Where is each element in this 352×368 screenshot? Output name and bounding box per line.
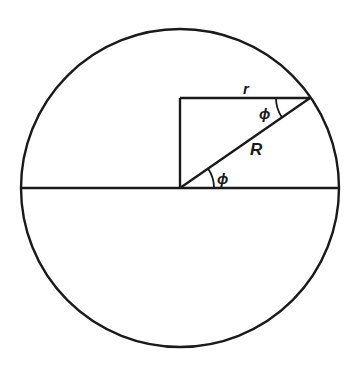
label-phi-top: ϕ — [259, 105, 270, 122]
label-r: r — [243, 80, 250, 97]
diagram-canvas: r R ϕ ϕ — [0, 0, 352, 368]
angle-arc-bottom — [208, 169, 214, 188]
label-R: R — [250, 140, 263, 159]
label-phi-bottom: ϕ — [217, 170, 228, 187]
hypotenuse-R — [180, 98, 310, 188]
angle-arc-top — [276, 98, 282, 117]
